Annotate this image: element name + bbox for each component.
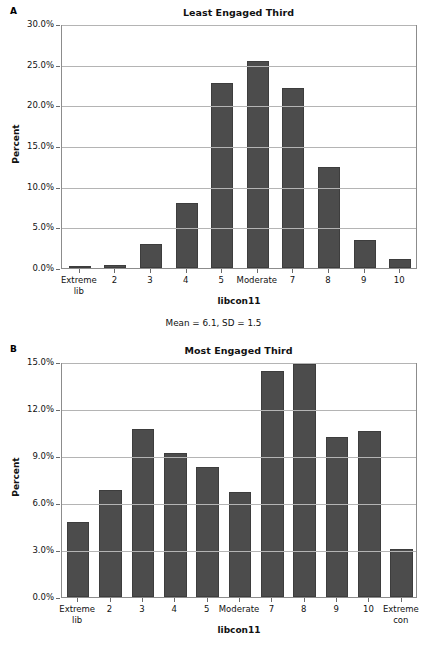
x-tick-mark	[79, 269, 80, 273]
bar	[67, 522, 90, 597]
gridline	[62, 504, 416, 505]
bar	[164, 453, 187, 597]
bar	[282, 88, 304, 268]
panel-b-x-axis-title: libcon11	[61, 625, 417, 635]
gridline	[62, 228, 416, 229]
panel-a-title: Least Engaged Third	[60, 7, 417, 18]
y-tick-mark	[56, 66, 60, 67]
gridline	[62, 410, 416, 411]
y-tick-mark	[56, 25, 60, 26]
panel-a-annotation: Mean = 6.1, SD = 1.5	[0, 318, 427, 328]
x-tick-mark	[364, 269, 365, 273]
y-tick-mark	[56, 188, 60, 189]
bar	[358, 431, 381, 597]
x-tick-mark	[328, 269, 329, 273]
gridline	[62, 363, 416, 364]
bar	[326, 437, 349, 597]
bar	[390, 549, 413, 597]
x-tick-mark	[257, 269, 258, 273]
x-tick-mark	[150, 269, 151, 273]
gridline	[62, 106, 416, 107]
bar	[211, 83, 233, 268]
bar	[132, 429, 155, 597]
y-tick-label: 6.0%	[4, 498, 54, 508]
x-tick-mark	[110, 598, 111, 602]
bar	[247, 61, 269, 268]
y-tick-mark	[56, 147, 60, 148]
bar	[293, 364, 316, 597]
y-tick-label: 15.0%	[4, 357, 54, 367]
panel-b-title: Most Engaged Third	[60, 345, 417, 356]
panel-a-x-axis-title: libcon11	[61, 296, 417, 306]
y-tick-label: 10.0%	[4, 182, 54, 192]
bar	[140, 244, 162, 268]
x-tick-mark	[186, 269, 187, 273]
gridline	[62, 551, 416, 552]
x-tick-mark	[336, 598, 337, 602]
x-tick-mark	[368, 598, 369, 602]
y-tick-label: 15.0%	[4, 141, 54, 151]
y-tick-label: 20.0%	[4, 100, 54, 110]
x-tick-mark	[114, 269, 115, 273]
panel-b-plot-area	[61, 363, 417, 598]
y-tick-mark	[56, 228, 60, 229]
panel-a-plot-area	[61, 25, 417, 269]
x-tick-label: Extreme con	[374, 604, 427, 625]
y-tick-label: 30.0%	[4, 19, 54, 29]
x-tick-mark	[142, 598, 143, 602]
panel-b-bars-layer	[62, 364, 416, 597]
y-tick-label: 3.0%	[4, 545, 54, 555]
y-tick-label: 5.0%	[4, 222, 54, 232]
gridline	[62, 188, 416, 189]
y-tick-mark	[56, 363, 60, 364]
panel-b-letter: B	[10, 344, 17, 354]
gridline	[62, 457, 416, 458]
panel-b-figure: B Most Engaged Third Percent 0.0%3.0%6.0…	[0, 338, 427, 645]
x-tick-mark	[271, 598, 272, 602]
y-tick-mark	[56, 551, 60, 552]
y-tick-mark	[56, 504, 60, 505]
x-tick-mark	[77, 598, 78, 602]
x-tick-mark	[292, 269, 293, 273]
bar	[354, 240, 376, 268]
x-tick-mark	[207, 598, 208, 602]
bar	[69, 266, 91, 268]
y-tick-mark	[56, 106, 60, 107]
y-tick-label: 12.0%	[4, 404, 54, 414]
gridline	[62, 66, 416, 67]
gridline	[62, 147, 416, 148]
x-tick-label: 10	[370, 275, 427, 286]
y-tick-mark	[56, 410, 60, 411]
y-tick-mark	[56, 598, 60, 599]
x-tick-mark	[174, 598, 175, 602]
x-tick-mark	[401, 598, 402, 602]
gridline	[62, 25, 416, 26]
bar	[104, 265, 126, 268]
x-tick-mark	[221, 269, 222, 273]
bar	[318, 167, 340, 268]
y-tick-label: 0.0%	[4, 263, 54, 273]
panel-a-figure: A Least Engaged Third Percent 0.0%5.0%10…	[0, 0, 427, 338]
y-tick-mark	[56, 457, 60, 458]
bar	[229, 492, 252, 597]
bar	[99, 490, 122, 597]
y-tick-label: 9.0%	[4, 451, 54, 461]
y-tick-label: 25.0%	[4, 60, 54, 70]
bar	[389, 259, 411, 268]
y-tick-mark	[56, 269, 60, 270]
bar	[176, 203, 198, 268]
y-tick-label: 0.0%	[4, 592, 54, 602]
x-tick-mark	[239, 598, 240, 602]
bar	[261, 371, 284, 597]
bar	[196, 467, 219, 597]
x-tick-mark	[304, 598, 305, 602]
x-tick-mark	[399, 269, 400, 273]
panel-a-letter: A	[10, 6, 17, 16]
